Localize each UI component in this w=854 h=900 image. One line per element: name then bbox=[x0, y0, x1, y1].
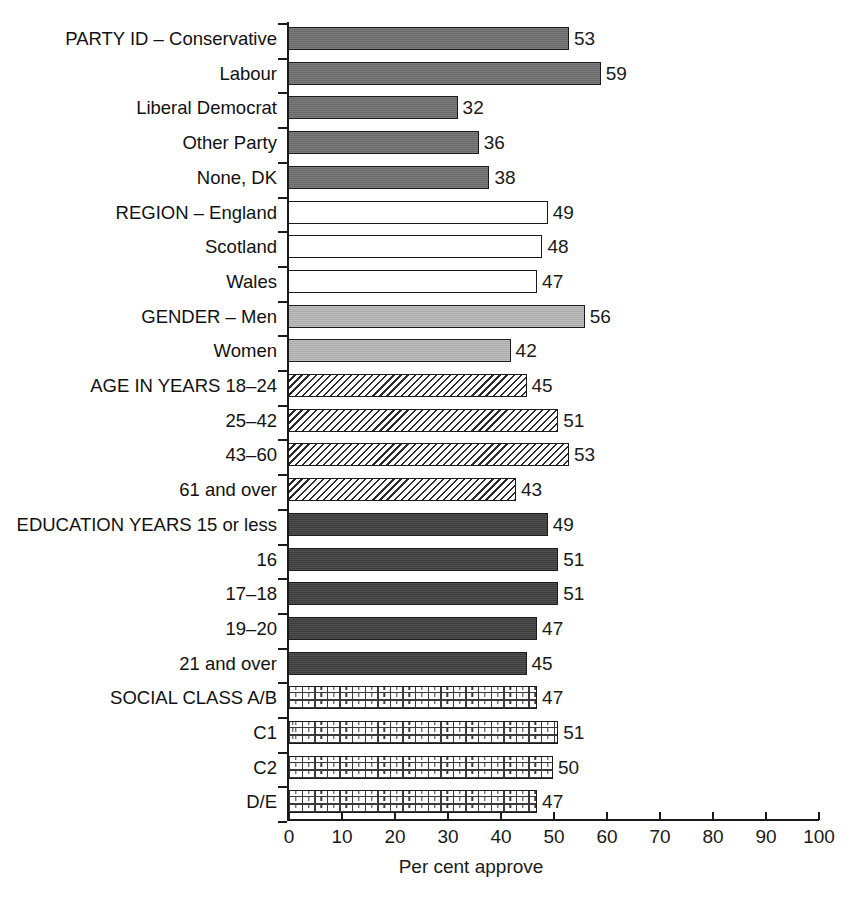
x-axis-tick-label: 10 bbox=[312, 826, 372, 848]
bar bbox=[288, 96, 458, 119]
bar-category-label: Scotland bbox=[0, 235, 277, 258]
bar-row: Scotland48 bbox=[0, 230, 854, 265]
bar bbox=[288, 790, 537, 813]
bar-category-label: Women bbox=[0, 339, 277, 362]
bar bbox=[288, 513, 548, 536]
x-axis-title: Per cent approve bbox=[0, 856, 854, 878]
y-axis-tick bbox=[278, 92, 287, 94]
y-axis-line bbox=[287, 22, 289, 820]
y-axis-tick bbox=[278, 370, 287, 372]
bar bbox=[288, 235, 542, 258]
y-axis-tick bbox=[278, 821, 287, 823]
x-axis-tick-label: 80 bbox=[683, 826, 743, 848]
bar-category-label: 43–60 bbox=[0, 443, 277, 466]
y-axis-tick bbox=[278, 682, 287, 684]
bar bbox=[288, 443, 569, 466]
bar-category-label: Labour bbox=[0, 62, 277, 85]
x-axis-tick-label: 50 bbox=[524, 826, 584, 848]
bar-category-label: Other Party bbox=[0, 131, 277, 154]
bar bbox=[288, 166, 489, 189]
bar-row: Liberal Democrat32 bbox=[0, 91, 854, 126]
x-axis-tick bbox=[606, 812, 608, 820]
y-axis-tick bbox=[278, 231, 287, 233]
x-axis-tick-label: 100 bbox=[789, 826, 849, 848]
bar-category-label: PARTY ID – Conservative bbox=[0, 27, 277, 50]
bar-row: Other Party36 bbox=[0, 126, 854, 161]
bar-row: REGION – England49 bbox=[0, 196, 854, 231]
x-axis-tick bbox=[341, 812, 343, 820]
bar bbox=[288, 374, 527, 397]
bar-row: 43–6053 bbox=[0, 438, 854, 473]
x-axis-tick-label: 0 bbox=[259, 826, 319, 848]
y-axis-tick bbox=[278, 23, 287, 25]
x-axis-tick bbox=[553, 812, 555, 820]
x-axis-tick bbox=[288, 812, 290, 820]
bar-value-label: 56 bbox=[590, 305, 611, 328]
y-axis-tick bbox=[278, 752, 287, 754]
bar-row: EDUCATION YEARS 15 or less49 bbox=[0, 508, 854, 543]
bar bbox=[288, 548, 558, 571]
bar-category-label: 19–20 bbox=[0, 617, 277, 640]
x-axis-tick-label: 90 bbox=[736, 826, 796, 848]
horizontal-bar-chart: PARTY ID – Conservative53Labour59Liberal… bbox=[0, 0, 854, 900]
x-axis-tick-label: 70 bbox=[630, 826, 690, 848]
bar-category-label: 21 and over bbox=[0, 652, 277, 675]
bar bbox=[288, 721, 558, 744]
bar-value-label: 50 bbox=[558, 756, 579, 779]
bar-value-label: 51 bbox=[563, 721, 584, 744]
bar-category-label: EDUCATION YEARS 15 or less bbox=[0, 513, 277, 536]
bar-row: None, DK38 bbox=[0, 161, 854, 196]
bar-row: 21 and over45 bbox=[0, 647, 854, 682]
bar-category-label: AGE IN YEARS 18–24 bbox=[0, 374, 277, 397]
y-axis-tick bbox=[278, 648, 287, 650]
x-axis-tick bbox=[712, 812, 714, 820]
y-axis-tick bbox=[278, 301, 287, 303]
bar-row: 17–1851 bbox=[0, 577, 854, 612]
x-axis-tick bbox=[447, 812, 449, 820]
bar-row: SOCIAL CLASS A/B47 bbox=[0, 681, 854, 716]
bar-value-label: 48 bbox=[547, 235, 568, 258]
bar-value-label: 51 bbox=[563, 548, 584, 571]
bar bbox=[288, 131, 479, 154]
bar-row: PARTY ID – Conservative53 bbox=[0, 22, 854, 57]
bar-value-label: 51 bbox=[563, 409, 584, 432]
bar-category-label: Wales bbox=[0, 270, 277, 293]
bar bbox=[288, 270, 537, 293]
y-axis-tick bbox=[278, 405, 287, 407]
bar bbox=[288, 652, 527, 675]
bar-value-label: 36 bbox=[484, 131, 505, 154]
bar-value-label: 43 bbox=[521, 478, 542, 501]
bar-row: C151 bbox=[0, 716, 854, 751]
bar-row: 25–4251 bbox=[0, 404, 854, 439]
bar-row: 61 and over43 bbox=[0, 473, 854, 508]
bar-category-label: C1 bbox=[0, 721, 277, 744]
bar-value-label: 38 bbox=[494, 166, 515, 189]
bar-row: GENDER – Men56 bbox=[0, 300, 854, 335]
y-axis-tick bbox=[278, 578, 287, 580]
bar-category-label: Liberal Democrat bbox=[0, 96, 277, 119]
bar-category-label: REGION – England bbox=[0, 201, 277, 224]
bar-row: Labour59 bbox=[0, 57, 854, 92]
x-axis-tick bbox=[394, 812, 396, 820]
bar-row: 1651 bbox=[0, 543, 854, 578]
y-axis-tick bbox=[278, 544, 287, 546]
bar-row: AGE IN YEARS 18–2445 bbox=[0, 369, 854, 404]
x-axis-tick-label: 30 bbox=[418, 826, 478, 848]
bar-category-label: 17–18 bbox=[0, 582, 277, 605]
bar bbox=[288, 305, 585, 328]
bar-value-label: 47 bbox=[542, 270, 563, 293]
bar bbox=[288, 582, 558, 605]
bar-category-label: 16 bbox=[0, 548, 277, 571]
bar-value-label: 53 bbox=[574, 443, 595, 466]
y-axis-tick bbox=[278, 58, 287, 60]
bar-row: 19–2047 bbox=[0, 612, 854, 647]
bar-category-label: None, DK bbox=[0, 166, 277, 189]
x-axis-tick bbox=[818, 812, 820, 820]
y-axis-tick bbox=[278, 509, 287, 511]
bar bbox=[288, 409, 558, 432]
bar-value-label: 45 bbox=[532, 652, 553, 675]
x-axis-tick-label: 60 bbox=[577, 826, 637, 848]
bar-value-label: 45 bbox=[532, 374, 553, 397]
bar-value-label: 49 bbox=[553, 513, 574, 536]
bar-row: Wales47 bbox=[0, 265, 854, 300]
